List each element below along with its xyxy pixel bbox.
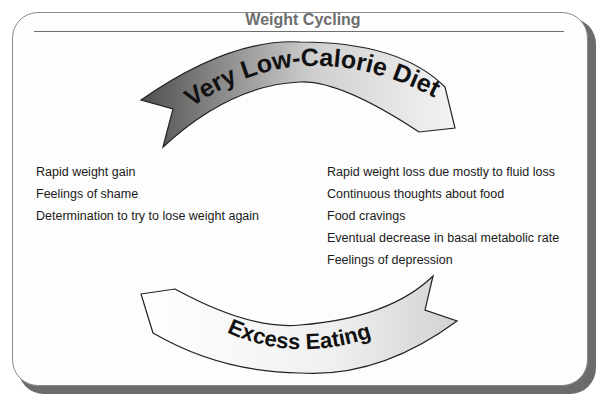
left-effect-item: Feelings of shame xyxy=(36,183,259,205)
left-effect-item: Rapid weight gain xyxy=(36,161,259,183)
right-effect-item: Rapid weight loss due mostly to fluid lo… xyxy=(327,161,559,183)
right-effect-item: Continuous thoughts about food xyxy=(327,183,559,205)
right-effect-item: Eventual decrease in basal metabolic rat… xyxy=(327,227,559,249)
left-effect-item: Determination to try to lose weight agai… xyxy=(36,205,259,227)
right-effects-list: Rapid weight loss due mostly to fluid lo… xyxy=(327,161,559,271)
excess-eating-arrow: Excess Eating xyxy=(141,276,457,373)
right-effect-item: Food cravings xyxy=(327,205,559,227)
left-effects-list: Rapid weight gain Feelings of shame Dete… xyxy=(36,161,259,227)
very-low-calorie-diet-arrow: Very Low-Calorie Diet xyxy=(141,42,455,147)
right-effect-item: Feelings of depression xyxy=(327,249,559,271)
